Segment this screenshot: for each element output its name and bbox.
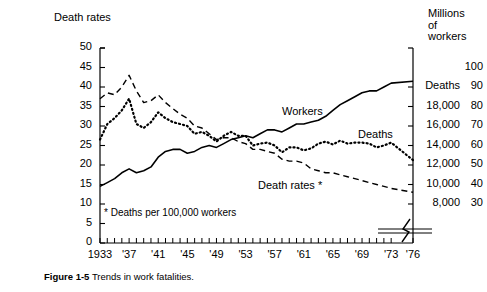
left-tick-label: 30 [66,119,92,131]
right-workers-tick-label: 100 [457,61,483,73]
left-tick-label: 50 [66,41,92,53]
left-tick-label: 45 [66,61,92,73]
left-tick-label: 25 [66,139,92,151]
right-workers-tick-label: 70 [457,119,483,131]
left-tick-label: 40 [66,80,92,92]
series-label: Death rates * [258,180,322,192]
caption-text: Trends in work fatalities. [92,271,194,282]
right-workers-tick-label: 80 [457,100,483,112]
figure-container: Death rates Millions of workers 05101520… [0,0,487,292]
right-workers-tick-label: 60 [457,139,483,151]
right-deaths-tick-label: 8,000 [416,197,460,209]
right-workers-tick-label: 50 [457,158,483,170]
left-tick-label: 35 [66,100,92,112]
series-label: Workers [282,106,323,118]
left-tick-label: 10 [66,197,92,209]
right-workers-tick-label: 40 [457,178,483,190]
series-label: Deaths [358,129,393,141]
axis-break-symbol [378,219,432,242]
x-tick-label: '76 [396,249,430,261]
right-deaths-tick-label: 14,000 [416,139,460,151]
right-deaths-tick-label: 16,000 [416,119,460,131]
figure-caption: Figure 1-5 Trends in work fatalities. [44,271,194,282]
right-deaths-tick-label: Deaths [416,80,460,92]
caption-label: Figure 1-5 [44,271,89,282]
right-deaths-tick-label: 18,000 [416,100,460,112]
left-tick-label: 15 [66,178,92,190]
left-tick-label: 0 [66,236,92,248]
footnote: * Deaths per 100,000 workers [104,208,236,219]
right-deaths-tick-label: 12,000 [416,158,460,170]
left-tick-label: 5 [66,217,92,229]
right-workers-tick-label: 90 [457,80,483,92]
right-deaths-tick-label: 10,000 [416,178,460,190]
left-tick-label: 20 [66,158,92,170]
right-workers-tick-label: 30 [457,197,483,209]
